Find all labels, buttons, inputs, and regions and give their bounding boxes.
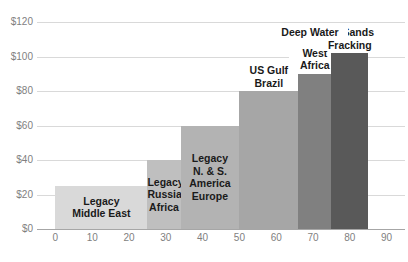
x-axis: 0102030405060708090 — [0, 232, 408, 252]
bar-0 — [55, 186, 147, 229]
x-tick-label-30: 30 — [151, 232, 181, 243]
x-tick-label-0: 0 — [40, 232, 70, 243]
gridline-120 — [37, 22, 405, 23]
gridline-0 — [37, 229, 405, 230]
x-tick-label-90: 90 — [372, 232, 402, 243]
x-tick-label-50: 50 — [224, 232, 254, 243]
bar-5 — [331, 53, 368, 229]
y-tick-label-20: $20 — [16, 189, 33, 200]
y-tick-label-40: $40 — [16, 154, 33, 165]
bar-1 — [147, 160, 180, 229]
x-tick-label-20: 20 — [114, 232, 144, 243]
oil-supply-cost-curve-chart: $0$20$40$60$80$100$120 Legacy Middle Eas… — [0, 0, 408, 262]
x-tick-label-70: 70 — [298, 232, 328, 243]
bar-label-3: US Gulf Brazil — [239, 64, 298, 89]
bar-3 — [239, 91, 298, 229]
bar-label-5: Oil Sands Fracking — [324, 26, 376, 51]
bar-2 — [181, 126, 240, 230]
y-axis: $0$20$40$60$80$100$120 — [0, 0, 33, 262]
plot-area: Legacy Middle EastLegacy Russia AfricaLe… — [37, 22, 405, 229]
x-tick-label-40: 40 — [188, 232, 218, 243]
bar-4 — [298, 74, 331, 229]
y-tick-label-80: $80 — [16, 85, 33, 96]
x-tick-label-60: 60 — [261, 232, 291, 243]
y-tick-label-60: $60 — [16, 120, 33, 131]
y-tick-label-120: $120 — [11, 16, 33, 27]
x-tick-label-80: 80 — [335, 232, 365, 243]
x-tick-label-10: 10 — [77, 232, 107, 243]
y-tick-label-100: $100 — [11, 51, 33, 62]
